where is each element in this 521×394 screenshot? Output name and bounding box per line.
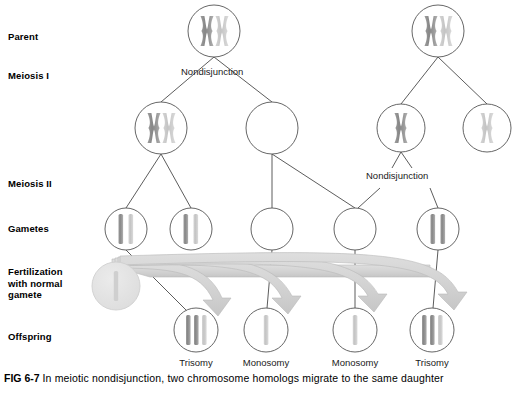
cell-membrane (170, 208, 212, 250)
connector-mi-right-a-to-gamete-4 (392, 152, 401, 168)
figure-number: FIG 6-7 (4, 372, 40, 384)
figure-caption: FIG 6-7 In meiotic nondisjunction, two c… (4, 372, 517, 385)
figure-container: Parent Meiosis I Meiosis II Gametes Fert… (0, 0, 521, 394)
cell-parent-left (188, 5, 240, 57)
outcome-label-monosomy-2: Monosomy (317, 357, 393, 368)
annotation-nondisjunction-meiosis-ii: Nondisjunction (366, 170, 428, 181)
connector-parent-left-to-mi-b (214, 57, 272, 102)
chromatid-dark-icon (431, 214, 436, 244)
cell-normal-gamete (92, 262, 140, 310)
chromatid-light-icon (438, 315, 443, 345)
connector-mi-a-to-gamete-1 (126, 154, 161, 208)
connector-parent-right-to-mi-b (438, 57, 487, 104)
chromatid-dark-icon (430, 315, 435, 345)
cell-meiosis-i-right-b (463, 104, 511, 152)
cell-membrane (251, 208, 293, 250)
chromatid-light-icon (264, 315, 269, 345)
chromatid-dark-icon (184, 214, 189, 244)
cell-gamete-3-empty (251, 208, 293, 250)
meiosis-nondisjunction-diagram (0, 0, 521, 394)
cell-membrane (246, 102, 298, 154)
connector-lines-left-tree (126, 57, 355, 320)
outcome-label-trisomy-1: Trisomy (160, 357, 232, 368)
cell-meiosis-i-right-a (377, 104, 425, 152)
cell-offspring-1-trisomy (174, 308, 218, 352)
chromatid-light-icon (202, 315, 207, 345)
connector-mi-right-a-to-gamete-5 (401, 152, 412, 168)
cell-meiosis-i-left-b-empty (246, 102, 298, 154)
connector-nd2-to-gamete-5 (430, 188, 438, 208)
cell-offspring-4-trisomy (410, 308, 454, 352)
row-label-offspring: Offspring (8, 331, 52, 343)
chromatid-light-icon (194, 214, 199, 244)
chromatid-dark-icon (119, 214, 124, 244)
cell-membrane (135, 102, 187, 154)
cell-membrane (417, 208, 459, 250)
cell-membrane (334, 208, 376, 250)
cell-gamete-5 (417, 208, 459, 250)
row-label-meiosis-ii: Meiosis II (8, 178, 52, 190)
cell-gamete-1 (105, 208, 147, 250)
connector-parent-left-to-mi-a (161, 57, 214, 102)
cell-gamete-2 (170, 208, 212, 250)
chromatid-dark-icon (194, 315, 199, 345)
cell-gamete-4-empty (334, 208, 376, 250)
chromatid-light-icon (129, 214, 134, 244)
chromatid-light-icon (114, 271, 118, 301)
connector-lines-right-tree (358, 57, 487, 320)
cell-membrane (412, 5, 464, 57)
cell-offspring-3-monosomy (333, 308, 377, 352)
annotation-nondisjunction-meiosis-i: Nondisjunction (181, 66, 243, 77)
cell-meiosis-i-left-a (135, 102, 187, 154)
connector-mi-a-to-gamete-2 (161, 154, 191, 208)
cell-parent-right (412, 5, 464, 57)
connector-nd2-to-gamete-4 (358, 188, 380, 208)
cell-membrane (188, 5, 240, 57)
cell-offspring-2-monosomy (244, 308, 288, 352)
row-label-gametes: Gametes (8, 223, 49, 235)
chromatid-light-icon (353, 315, 358, 345)
fertilization-arrow-band (108, 253, 467, 316)
row-label-meiosis-i: Meiosis I (8, 70, 49, 82)
connector-parent-right-to-mi-a (401, 57, 438, 104)
connector-mi-b-to-gamete-4 (272, 154, 355, 208)
row-label-fertilization: Fertilization with normal gamete (8, 266, 63, 301)
figure-caption-text: In meiotic nondisjunction, two chromosom… (43, 372, 444, 384)
chromatid-dark-icon (422, 315, 427, 345)
outcome-label-monosomy-1: Monosomy (228, 357, 304, 368)
chromatid-dark-icon (186, 315, 191, 345)
outcome-label-trisomy-2: Trisomy (396, 357, 468, 368)
row-label-parent: Parent (8, 31, 38, 43)
cell-membrane (105, 208, 147, 250)
chromatid-dark-icon (441, 214, 446, 244)
